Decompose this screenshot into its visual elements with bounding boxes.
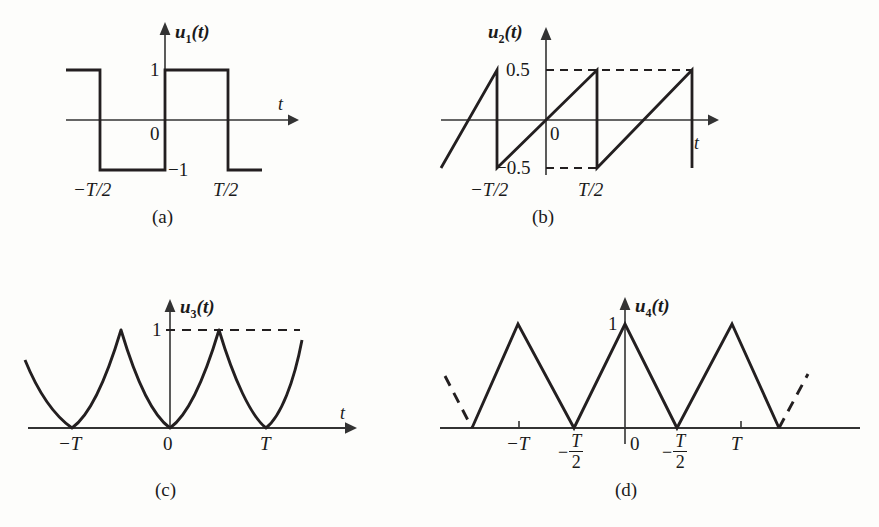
panel-c-label-y-high: 1 bbox=[152, 320, 162, 339]
panel-a-plot bbox=[0, 0, 440, 240]
panel-d-dashed-right bbox=[779, 374, 808, 428]
panel-d-frac-left-den: 2 bbox=[569, 452, 583, 471]
panel-d-frac-right-num: T bbox=[673, 432, 687, 452]
panel-c-label-origin: 0 bbox=[163, 434, 173, 453]
panel-d-frac-right-sign: − bbox=[662, 443, 673, 461]
panel-c-label-t-axis: t bbox=[340, 404, 345, 422]
panel-b-t-axis bbox=[441, 115, 719, 126]
panel-d-label-y-high: 1 bbox=[608, 314, 618, 333]
panel-d-label-frac-right: −T2 bbox=[662, 432, 687, 471]
panel-b-caption: (b) bbox=[532, 207, 554, 226]
panel-b-waveform bbox=[441, 70, 692, 168]
panel-a-label-t-axis: t bbox=[278, 95, 283, 113]
panel-d-label-origin: 0 bbox=[630, 434, 640, 453]
panel-d-label-x-pos-T: T bbox=[731, 434, 742, 453]
panel-a-signal-arg: (t) bbox=[192, 21, 210, 42]
panel-a-label-origin: 0 bbox=[150, 124, 160, 143]
panel-b-signal-letter: u bbox=[488, 21, 499, 42]
panel-c-signal-name: u3(t) bbox=[180, 297, 215, 320]
panel-b-label-y-high: 0.5 bbox=[506, 60, 530, 79]
panel-d-label-frac-left: −T2 bbox=[558, 432, 583, 471]
panel-d-signal-letter: u bbox=[635, 295, 646, 316]
panel-d-label-x-neg-T: −T bbox=[506, 434, 529, 453]
panel-b-label-x-left: −T/2 bbox=[470, 180, 508, 199]
panel-d-dashed-left bbox=[445, 376, 472, 428]
panel-c-label-x-right: T bbox=[260, 434, 271, 453]
panel-b-label-y-low: −0.5 bbox=[496, 158, 530, 177]
panel-d: 1 0 −T T −T2 −T2 u4(t) (d) bbox=[440, 264, 879, 527]
panel-b-u-axis bbox=[541, 27, 552, 175]
panel-b-label-t-axis: t bbox=[694, 134, 699, 152]
panel-a: 1 0 −1 −T/2 T/2 t u1(t) (a) bbox=[0, 0, 440, 240]
panel-c-waveform bbox=[25, 330, 302, 428]
panel-c-plot bbox=[0, 264, 440, 527]
panel-a-signal-name: u1(t) bbox=[175, 22, 210, 45]
panel-d-signal-arg: (t) bbox=[652, 295, 670, 316]
panel-c-u-axis bbox=[165, 299, 176, 428]
panel-b-signal-arg: (t) bbox=[505, 21, 523, 42]
panel-a-label-x-right: T/2 bbox=[213, 180, 238, 199]
panel-d-frac-left-num: T bbox=[569, 432, 583, 452]
panel-b: 0.5 0 −0.5 −T/2 T/2 t u2(t) (b) bbox=[440, 0, 879, 240]
panel-d-u-axis bbox=[620, 297, 631, 444]
panel-b-label-origin: 0 bbox=[550, 124, 560, 143]
panel-c-label-x-left: −T bbox=[58, 434, 81, 453]
panel-d-frac-right-den: 2 bbox=[673, 452, 687, 471]
panel-c-signal-arg: (t) bbox=[197, 296, 215, 317]
panel-a-label-y-low: −1 bbox=[168, 160, 188, 179]
panel-c-signal-letter: u bbox=[180, 296, 191, 317]
panel-d-frac-left: T2 bbox=[569, 432, 583, 471]
panel-c-caption: (c) bbox=[155, 480, 176, 499]
figure-root: 1 0 −1 −T/2 T/2 t u1(t) (a) bbox=[0, 0, 879, 527]
panel-b-signal-name: u2(t) bbox=[488, 22, 523, 45]
panel-d-frac-right: T2 bbox=[673, 432, 687, 471]
panel-d-signal-name: u4(t) bbox=[635, 296, 670, 319]
panel-a-label-x-left: −T/2 bbox=[73, 180, 111, 199]
panel-d-frac-left-sign: − bbox=[558, 443, 569, 461]
panel-b-label-x-right: T/2 bbox=[578, 180, 603, 199]
panel-a-signal-letter: u bbox=[175, 21, 186, 42]
panel-d-caption: (d) bbox=[615, 480, 637, 499]
panel-a-caption: (a) bbox=[152, 207, 173, 226]
panel-c: 1 0 −T T t u3(t) (c) bbox=[0, 264, 440, 527]
panel-a-label-y-high: 1 bbox=[150, 60, 160, 79]
